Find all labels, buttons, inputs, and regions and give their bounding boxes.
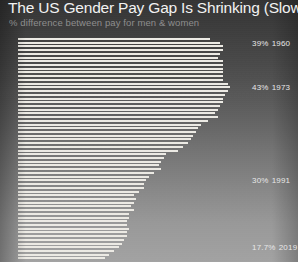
- bar-1975: [18, 94, 225, 96]
- bar-1973: [18, 86, 230, 88]
- bar-2012: [18, 231, 127, 233]
- bar-2016: [18, 246, 119, 248]
- bar-2018: [18, 254, 109, 256]
- bar-1996: [18, 172, 154, 174]
- bar-1991: [18, 153, 166, 155]
- bar-1984: [18, 127, 198, 129]
- bar-1998: [18, 179, 146, 181]
- ann-1991: 30%1991: [252, 176, 290, 185]
- bar-1967: [18, 64, 223, 66]
- bar-1995: [18, 168, 161, 170]
- bar-2009: [18, 220, 127, 222]
- chart-subtitle: % difference between pay for men & women: [9, 17, 199, 29]
- ann-1973-percent: 43%: [252, 83, 269, 92]
- bar-1966: [18, 60, 223, 62]
- ann-1960: 39%1960: [252, 39, 290, 48]
- bar-1999: [18, 183, 144, 185]
- bar-1964: [18, 53, 220, 55]
- bar-1985: [18, 131, 196, 133]
- bar-1974: [18, 90, 228, 92]
- bar-1983: [18, 124, 201, 126]
- bar-2003: [18, 198, 136, 200]
- bar-1965: [18, 57, 218, 59]
- ann-1973-year: 1973: [272, 83, 291, 92]
- bar-1960: [18, 38, 210, 40]
- chart-figure: The US Gender Pay Gap Is Shrinking (Slow…: [0, 0, 298, 262]
- ann-1991-year: 1991: [272, 176, 291, 185]
- bar-1980: [18, 112, 215, 114]
- bar-1971: [18, 79, 223, 81]
- bar-1972: [18, 83, 228, 85]
- bar-1987: [18, 138, 191, 140]
- ann-2019: 17.7%2019: [252, 243, 297, 252]
- page-title: The US Gender Pay Gap Is Shrinking (Slow…: [8, 0, 298, 17]
- bar-1988: [18, 142, 188, 144]
- bar-1969: [18, 71, 223, 73]
- bar-2002: [18, 194, 134, 196]
- bar-1994: [18, 164, 159, 166]
- ann-1960-year: 1960: [272, 39, 291, 48]
- bar-2017: [18, 250, 114, 252]
- bar-2011: [18, 228, 129, 230]
- bar-2014: [18, 239, 124, 241]
- bar-2007: [18, 213, 129, 215]
- ann-2019-percent: 17.7%: [252, 243, 276, 252]
- bar-1982: [18, 120, 208, 122]
- bar-1978: [18, 105, 220, 107]
- bar-2015: [18, 243, 122, 245]
- bar-2006: [18, 209, 134, 211]
- bar-1962: [18, 45, 223, 47]
- bar-1981: [18, 116, 218, 118]
- bar-2019: [18, 257, 105, 259]
- ann-1991-percent: 30%: [252, 176, 269, 185]
- bar-1990: [18, 150, 178, 152]
- bar-2005: [18, 205, 131, 207]
- ann-2019-year: 2019: [279, 243, 298, 252]
- bar-1970: [18, 75, 223, 77]
- bar-1963: [18, 49, 223, 51]
- ann-1960-percent: 39%: [252, 39, 269, 48]
- bar-1979: [18, 109, 218, 111]
- bar-1968: [18, 68, 223, 70]
- bar-2000: [18, 187, 144, 189]
- bar-1986: [18, 135, 193, 137]
- bar-1989: [18, 146, 183, 148]
- bar-2013: [18, 235, 127, 237]
- bar-2001: [18, 191, 139, 193]
- bar-1997: [18, 176, 149, 178]
- bar-1993: [18, 161, 161, 163]
- ann-1973: 43%1973: [252, 83, 290, 92]
- bar-1961: [18, 42, 220, 44]
- bar-1977: [18, 101, 223, 103]
- bar-2010: [18, 224, 127, 226]
- bar-1976: [18, 98, 223, 100]
- bar-1992: [18, 157, 164, 159]
- bar-2004: [18, 202, 134, 204]
- bar-2008: [18, 217, 129, 219]
